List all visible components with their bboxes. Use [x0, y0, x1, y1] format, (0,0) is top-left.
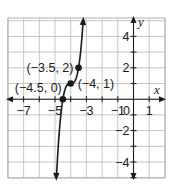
data-point [75, 65, 82, 72]
data-point [60, 96, 67, 103]
function-graph: −7−5−3−1142−2−4 x y 0 (−4.5, 0)(−4, 1)(−… [0, 0, 173, 185]
y-tick-label: 2 [123, 61, 130, 75]
origin-label: 0 [123, 104, 130, 118]
point-label: (−3.5, 2) [27, 61, 74, 75]
y-tick-label: −2 [115, 124, 129, 138]
y-axis-label: y [136, 14, 144, 29]
y-tick-label: 4 [123, 30, 130, 44]
data-point [67, 80, 74, 87]
x-axis-label: x [153, 82, 160, 97]
x-tick-label: −7 [16, 104, 30, 118]
point-label: (−4, 1) [78, 77, 114, 91]
x-tick-label: −3 [79, 104, 93, 118]
y-tick-label: −4 [115, 156, 129, 170]
point-label: (−4.5, 0) [15, 81, 62, 95]
x-tick-label: 1 [146, 104, 153, 118]
